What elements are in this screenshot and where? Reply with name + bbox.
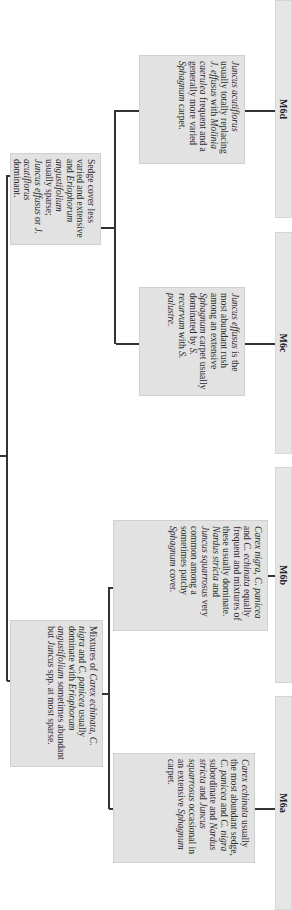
label-m6d: M6d: [278, 99, 289, 119]
branch-line-sedge: [115, 110, 117, 344]
text-m6a: Carex echinata usually the most abundant…: [166, 759, 251, 856]
connector-to-m6d-box: [116, 110, 140, 112]
diagram-canvas: Sedge cover less varied and extensive an…: [0, 0, 292, 910]
key-box-m6b: Carex nigra, C. panicea and C. echinata …: [113, 520, 268, 631]
root-tick: [0, 455, 8, 457]
connector-to-m6c-box: [116, 343, 140, 345]
branch-line-mixtures: [109, 587, 111, 809]
label-m6b: M6b: [278, 565, 289, 585]
text-m6d: Juncus acutiflorus usually totally repla…: [177, 61, 241, 154]
connector-m6d-bar: [245, 110, 275, 112]
connector-m6a-bar: [255, 808, 275, 810]
text-m6b: Carex nigra, C. panicea and C. echinata …: [168, 526, 264, 621]
community-bar-m6b: M6b: [275, 467, 292, 683]
trunk-line: [7, 175, 9, 681]
key-box-mixtures: Mixtures of Carex echinata, C. nigra and…: [10, 620, 103, 767]
text-m6c: Juncus effusus is the most abundant rush…: [166, 293, 241, 389]
community-bar-m6c: M6c: [275, 232, 292, 454]
community-bar-m6d: M6d: [275, 0, 292, 218]
connector-m6b-bar: [268, 575, 275, 577]
connector-m6c-bar: [245, 343, 275, 345]
text-mixtures: Mixtures of Carex echinata, C. nigra and…: [46, 626, 99, 760]
key-box-m6a: Carex echinata usually the most abundant…: [113, 753, 255, 863]
text-sedge-less: Sedge cover less varied and extensive an…: [12, 159, 97, 238]
key-box-m6d: Juncus acutiflorus usually totally repla…: [139, 55, 245, 164]
key-box-m6c: Juncus effusus is the most abundant rush…: [139, 287, 245, 396]
community-bar-m6a: M6a: [275, 696, 292, 910]
label-m6c: M6c: [278, 334, 289, 353]
label-m6a: M6a: [278, 793, 289, 812]
key-box-sedge-less: Sedge cover less varied and extensive an…: [10, 153, 101, 245]
